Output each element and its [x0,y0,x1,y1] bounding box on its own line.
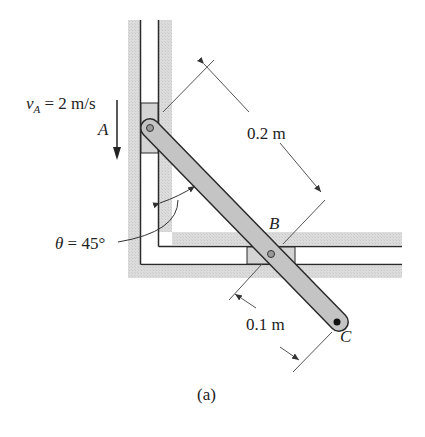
pin-a [147,125,154,132]
velocity-symbol: v [26,94,34,113]
point-a-label: A [98,121,108,138]
dimension-bc-label: 0.1 m [246,316,285,333]
dimension-ab-label: 0.2 m [247,125,286,142]
figure-caption: (a) [197,386,216,403]
velocity-label: vA = 2 m/s [26,95,96,112]
angle-symbol: θ [55,234,63,253]
velocity-subscript: A [34,103,41,115]
rod-ac [150,128,339,322]
pin-b [268,251,275,258]
mechanism-diagram [0,0,425,437]
velocity-arrow [113,100,121,160]
velocity-value: = 2 m/s [45,94,96,113]
point-b-label: B [269,215,279,232]
point-c [334,319,341,326]
angle-value: = 45° [68,234,106,253]
point-c-label: C [340,328,351,345]
angle-label: θ = 45° [55,235,105,252]
